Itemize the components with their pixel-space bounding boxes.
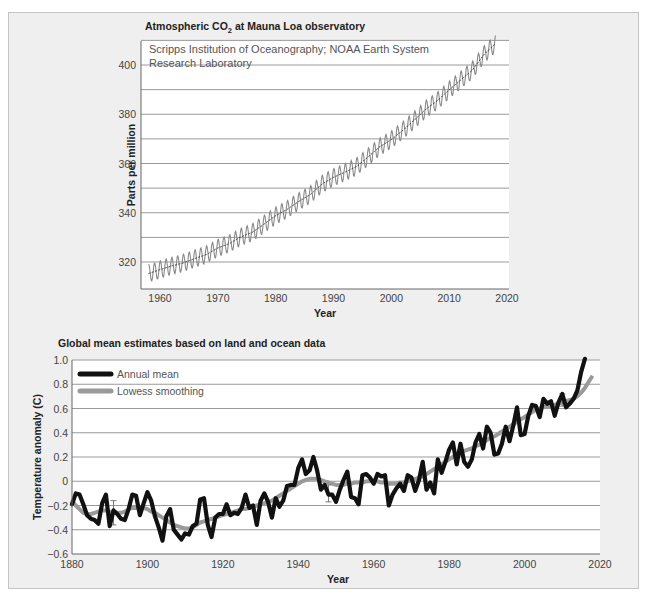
temperature-x-tick-labels: 18801900192019401960198020002020	[60, 558, 612, 570]
x-tick-label: 1960	[148, 292, 172, 304]
y-tick-label: −0.2	[47, 500, 68, 512]
co2-y-axis-label: Parts per million	[125, 124, 137, 206]
temperature-chart: Global mean estimates based on land and …	[31, 337, 612, 585]
co2-source-line-2: Research Laboratory	[149, 57, 252, 69]
y-tick-label: 1.0	[53, 354, 68, 366]
x-tick-label: 1920	[211, 558, 235, 570]
y-tick-label: 400	[118, 59, 136, 71]
x-tick-label: 2000	[513, 558, 537, 570]
temperature-y-axis-label: Temperature anomaly (C)	[31, 394, 43, 520]
figure-canvas: Atmospheric CO2 at Mauna Loa observatory…	[0, 0, 646, 602]
x-tick-label: 1990	[322, 292, 346, 304]
y-tick-label: 320	[118, 256, 136, 268]
legend-label-lowess: Lowess smoothing	[117, 385, 204, 397]
x-tick-label: 1880	[60, 558, 84, 570]
legend-label-annual-mean: Annual mean	[117, 368, 179, 380]
x-tick-label: 1980	[264, 292, 288, 304]
y-tick-label: 0.2	[53, 451, 68, 463]
x-tick-label: 2020	[495, 292, 519, 304]
y-tick-label: 380	[118, 108, 136, 120]
y-tick-label: 0.4	[53, 427, 68, 439]
x-tick-label: 1970	[206, 292, 230, 304]
x-tick-label: 1900	[136, 558, 160, 570]
y-tick-label: 0.8	[53, 378, 68, 390]
x-tick-label: 1980	[437, 558, 461, 570]
x-tick-label: 2010	[437, 292, 461, 304]
y-tick-label: 0	[62, 475, 68, 487]
x-tick-label: 2020	[588, 558, 612, 570]
temperature-y-tick-labels: −0.6−0.4−0.200.20.40.60.81.0	[47, 354, 68, 560]
co2-chart: Atmospheric CO2 at Mauna Loa observatory…	[118, 20, 518, 319]
temperature-x-axis-label: Year	[327, 573, 349, 585]
y-tick-label: −0.4	[47, 524, 68, 536]
co2-source-line-1: Scripps Institution of Oceanography; NOA…	[149, 43, 429, 55]
co2-x-tick-labels: 1960197019801990200020102020	[148, 292, 519, 304]
x-tick-label: 1960	[362, 558, 386, 570]
y-tick-label: 340	[118, 207, 136, 219]
x-tick-label: 1940	[287, 558, 311, 570]
x-tick-label: 2000	[380, 292, 404, 304]
y-tick-label: 0.6	[53, 403, 68, 415]
temperature-chart-title: Global mean estimates based on land and …	[58, 337, 325, 349]
co2-chart-title: Atmospheric CO2 at Mauna Loa observatory	[145, 20, 365, 35]
co2-x-axis-label: Year	[314, 307, 336, 319]
